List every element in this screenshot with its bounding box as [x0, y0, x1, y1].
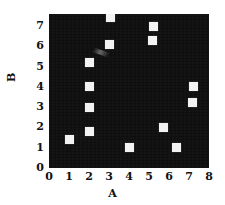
data-point [85, 103, 94, 112]
y-tick-label: 6 [30, 39, 44, 52]
scatter-plot-figure: 012345678 01234567 A B [0, 0, 225, 205]
data-point [159, 123, 168, 132]
data-point [189, 82, 198, 91]
x-tick-label: 7 [181, 170, 197, 183]
data-point [85, 82, 94, 91]
x-tick-label: 2 [81, 170, 97, 183]
data-point [85, 127, 94, 136]
y-tick-label: 1 [30, 141, 44, 154]
data-point [188, 98, 197, 107]
x-tick-label: 1 [61, 170, 77, 183]
plot-area [49, 14, 209, 168]
data-point [85, 58, 94, 67]
x-tick-label: 5 [141, 170, 157, 183]
y-tick-label: 2 [30, 120, 44, 133]
y-tick-label: 7 [30, 19, 44, 32]
data-point [125, 143, 134, 152]
scan-artifact [93, 47, 110, 57]
y-tick-label: 3 [30, 100, 44, 113]
data-point [172, 143, 181, 152]
x-tick-label: 8 [201, 170, 217, 183]
y-tick-label: 5 [30, 60, 44, 73]
y-tick-label: 0 [30, 161, 44, 174]
x-tick-label: 3 [101, 170, 117, 183]
x-axis-title: A [0, 187, 225, 200]
x-tick-label: 6 [161, 170, 177, 183]
x-tick-label: 4 [121, 170, 137, 183]
y-axis-title: B [5, 73, 18, 82]
data-point [106, 14, 115, 22]
data-point [149, 22, 158, 31]
data-point [105, 40, 114, 49]
data-point [148, 36, 157, 45]
y-tick-label: 4 [30, 80, 44, 93]
data-point [65, 135, 74, 144]
